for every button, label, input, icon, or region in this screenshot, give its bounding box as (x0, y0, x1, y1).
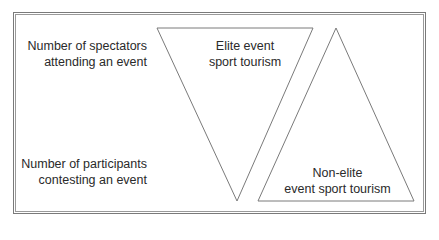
participants-label-line-1: Number of participants (14, 156, 147, 172)
elite-label-line-1: Elite event (190, 38, 300, 54)
participants-axis-label: Number of participants contesting an eve… (14, 156, 147, 188)
elite-triangle-label: Elite event sport tourism (190, 38, 300, 70)
non-elite-triangle-label: Non-elite event sport tourism (275, 165, 400, 197)
spectators-axis-label: Number of spectators attending an event (20, 38, 147, 70)
participants-label-line-2: contesting an event (14, 172, 147, 188)
non-elite-label-line-2: event sport tourism (275, 181, 400, 197)
elite-label-line-2: sport tourism (190, 54, 300, 70)
spectators-label-line-2: attending an event (20, 54, 147, 70)
non-elite-label-line-1: Non-elite (275, 165, 400, 181)
spectators-label-line-1: Number of spectators (20, 38, 147, 54)
